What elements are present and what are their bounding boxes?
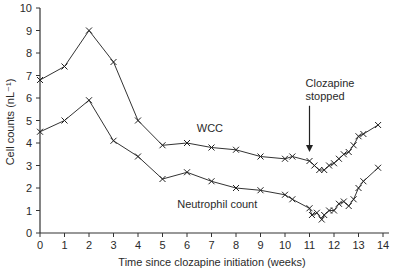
- x-axis-label: Time since clozapine initiation (weeks): [118, 256, 305, 268]
- y-tick-label: 10: [20, 2, 32, 14]
- x-tick-label: 0: [37, 239, 43, 251]
- y-tick-label: 9: [26, 25, 32, 37]
- data-point-neutrophil-count: [160, 176, 166, 182]
- annotation-wcc: WCC: [197, 122, 223, 134]
- data-point-wcc: [375, 122, 381, 128]
- y-tick-label: 0: [26, 227, 32, 239]
- annotation-line: stopped: [306, 90, 345, 102]
- data-point-neutrophil-count: [111, 138, 117, 144]
- x-tick-label: 5: [159, 239, 165, 251]
- y-tick-label: 6: [26, 92, 32, 104]
- x-tick-label: 14: [377, 239, 389, 251]
- x-tick-label: 12: [328, 239, 340, 251]
- x-tick-label: 13: [352, 239, 364, 251]
- y-tick-label: 8: [26, 47, 32, 59]
- annotation-neutrophil-count: Neutrophil count: [177, 198, 257, 210]
- data-point-neutrophil-count: [346, 203, 352, 209]
- x-tick-label: 1: [61, 239, 67, 251]
- x-tick-label: 7: [208, 239, 214, 251]
- data-point-neutrophil-count: [360, 178, 366, 184]
- data-point-neutrophil-count: [209, 178, 215, 184]
- data-point-neutrophil-count: [356, 185, 362, 191]
- annotation-clozapine-stopped: Clozapinestopped: [306, 77, 355, 102]
- data-point-neutrophil-count: [62, 118, 68, 124]
- x-tick-label: 9: [257, 239, 263, 251]
- x-tick-label: 10: [279, 239, 291, 251]
- y-tick-label: 2: [26, 182, 32, 194]
- x-tick-label: 6: [184, 239, 190, 251]
- line-chart: 01234567891011121314012345678910 WCCNeut…: [0, 0, 393, 274]
- data-point-wcc: [351, 142, 357, 148]
- data-point-wcc: [289, 154, 295, 160]
- data-point-neutrophil-count: [351, 196, 357, 202]
- y-tick-label: 1: [26, 205, 32, 217]
- y-tick-label: 3: [26, 160, 32, 172]
- data-point-neutrophil-count: [135, 154, 141, 160]
- y-tick-label: 4: [26, 137, 32, 149]
- data-point-neutrophil-count: [289, 196, 295, 202]
- data-point-neutrophil-count: [184, 169, 190, 175]
- y-tick-label: 5: [26, 115, 32, 127]
- data-point-wcc: [86, 28, 92, 34]
- data-point-neutrophil-count: [307, 205, 313, 211]
- annotations: WCCNeutrophil countClozapinestopped: [177, 77, 354, 211]
- x-tick-label: 8: [233, 239, 239, 251]
- data-point-neutrophil-count: [86, 97, 92, 103]
- annotation-line: Clozapine: [306, 77, 355, 89]
- y-axis-label: Cell counts (nL⁻¹): [4, 79, 16, 166]
- x-tick-label: 4: [135, 239, 141, 251]
- data-point-neutrophil-count: [375, 165, 381, 171]
- annotation-line: WCC: [197, 122, 223, 134]
- data-point-wcc: [111, 59, 117, 65]
- x-tick-label: 11: [304, 239, 315, 251]
- x-tick-label: 2: [86, 239, 92, 251]
- arrow-head-icon: [306, 145, 313, 152]
- data-point-wcc: [135, 118, 141, 124]
- y-tick-label: 7: [26, 70, 32, 82]
- annotation-line: Neutrophil count: [177, 198, 257, 210]
- data-point-wcc: [62, 64, 68, 70]
- x-tick-label: 3: [110, 239, 116, 251]
